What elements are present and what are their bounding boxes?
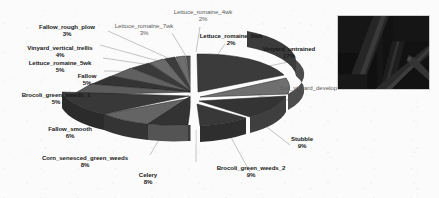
slice-label-name: Lettuce_romaine_5wk bbox=[29, 59, 92, 66]
slice-label-fallow: Fallow 5% bbox=[67, 72, 107, 87]
slice-label-name: Lettuce_romaine_7wk bbox=[115, 22, 174, 29]
slice-label-name: Fallow_smooth bbox=[48, 125, 92, 132]
slice-label-pct: 8% bbox=[20, 161, 150, 168]
pie-explode-gap bbox=[191, 40, 196, 144]
slice-label-name: Brocoli_green_weeds_2 bbox=[217, 164, 286, 171]
slice-label-fallow-rough-plow: Fallow_rough_plow 3% bbox=[24, 23, 110, 38]
slice-label-name: Soil_vinyard_develop... bbox=[280, 84, 342, 91]
slice-label-celery: Celery 8% bbox=[126, 171, 170, 186]
slice-label-pct: 3% bbox=[24, 30, 110, 37]
slice-label-pct: 17% bbox=[248, 52, 330, 59]
slice-label-brocoli-green-weeds-2: Brocoli_green_weeds_2 9% bbox=[199, 164, 303, 179]
slice-label-name: Lettuce_romaine_4wk bbox=[174, 8, 233, 15]
slice-label-pct: 9% bbox=[278, 142, 326, 149]
slice-label-fallow-smooth: Fallow_smooth 6% bbox=[31, 125, 109, 140]
slice-label-name: Vinyard_vertical_trellis bbox=[27, 44, 92, 51]
slice-label-pct: 6% bbox=[31, 132, 109, 139]
hyperspectral-scene-thumbnail bbox=[337, 15, 430, 90]
slice-label-lettuce-romaine-5wk: Lettuce_romaine_5wk 5% bbox=[14, 59, 106, 74]
slice-label-name: Celery bbox=[139, 171, 157, 178]
slice-label-corn-senesced-green-weeds: Corn_senesced_green_weeds 8% bbox=[20, 154, 150, 169]
slice-label-lettuce-romaine-7wk: Lettuce_romaine_7wk 3% bbox=[103, 22, 185, 37]
slice-label-name: Corn_senesced_green_weeds bbox=[42, 154, 128, 161]
slice-label-pct: 5% bbox=[67, 79, 107, 86]
slice-label-name: Stubble bbox=[291, 135, 313, 142]
slice-label-pct: 3% bbox=[103, 29, 185, 36]
slice-label-name: Lettuce_romaine_6wk bbox=[200, 32, 263, 39]
thumbnail-image bbox=[338, 16, 429, 89]
slice-label-vinyard-untrained: Vinyard_untrained 17% bbox=[248, 45, 330, 60]
slice-label-stubble: Stubble 9% bbox=[278, 135, 326, 150]
slice-label-pct: 5% bbox=[4, 98, 108, 105]
slice-label-pct: 4% bbox=[12, 51, 108, 58]
slice-label-name: Vinyard_untrained bbox=[263, 45, 316, 52]
slice-label-lettuce-romaine-4wk: Lettuce_romaine_4wk 2% bbox=[168, 8, 238, 23]
slice-label-name: Brocoli_green_weeds_1 bbox=[22, 91, 91, 98]
slice-label-name: Fallow_rough_plow bbox=[39, 23, 95, 30]
slice-label-soil-vinyard-develop: Soil_vinyard_develop... bbox=[280, 84, 342, 91]
slice-label-pct: 8% bbox=[126, 178, 170, 185]
slice-label-brocoli-green-weeds-1: Brocoli_green_weeds_1 5% bbox=[4, 91, 108, 106]
slice-label-pct: 5% bbox=[14, 66, 106, 73]
slice-label-pct: 9% bbox=[199, 171, 303, 178]
slice-label-vinyard-vertical-trellis: Vinyard_vertical_trellis 4% bbox=[12, 44, 108, 59]
